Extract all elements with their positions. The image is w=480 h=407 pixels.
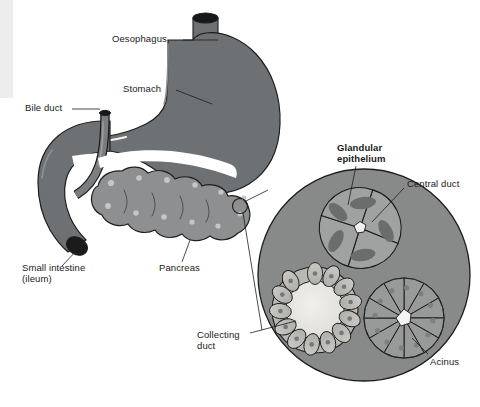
label-stomach: Stomach [123, 83, 161, 95]
stomach-group [75, 13, 280, 194]
label-pancreas: Pancreas [159, 262, 200, 274]
label-glandular-line2: epithelium [337, 153, 386, 165]
label-small-intestine-line1: Small intestine [22, 262, 85, 274]
page-edge-strip [0, 0, 13, 98]
label-collecting-duct-line1: Collecting [197, 329, 240, 341]
label-glandular-line1: Glandular [337, 142, 382, 154]
label-small-intestine-line2: (ileum) [22, 273, 52, 285]
label-oesophagus: Oesophagus [112, 33, 167, 45]
label-collecting-duct-line2: duct [197, 340, 215, 352]
figure-canvas: Oesophagus Stomach Bile duct Small intes… [0, 0, 480, 407]
anatomy-illustration [0, 0, 480, 407]
label-central-duct: Central duct [407, 178, 459, 190]
leader-pancreas [182, 240, 190, 262]
acinus-structure [364, 278, 444, 358]
glandular-epithelium-structure [319, 188, 401, 269]
bile-duct-opening [100, 110, 111, 115]
label-bile-duct: Bile duct [25, 102, 62, 114]
oesophagus-opening [193, 13, 218, 23]
label-acinus: Acinus [430, 356, 459, 368]
pancreas-histology-inset [258, 169, 470, 381]
